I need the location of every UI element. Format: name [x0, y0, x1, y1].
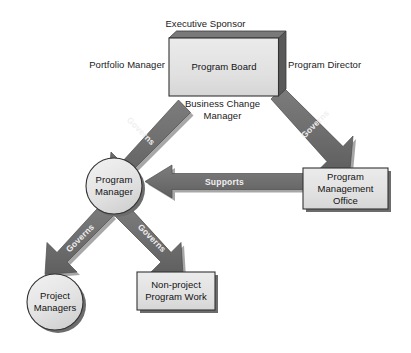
label-program-director: Program Director: [288, 59, 361, 71]
node-label-pmo-line1: Program: [303, 171, 388, 183]
edge-label-pmo-to-manager: Supports: [205, 177, 244, 187]
label-business-change-manager-line1: Business Change: [160, 98, 285, 110]
node-label-program-manager-line1: Program: [84, 174, 144, 186]
node-label-project-managers-line2: Managers: [25, 302, 85, 314]
node-label-program-board: Program Board: [169, 61, 279, 73]
node-label-project-managers-line1: Project: [25, 290, 85, 302]
node-label-pmo-line3: Office: [303, 195, 388, 207]
node-label-program-manager-line2: Manager: [84, 186, 144, 198]
label-portfolio-manager: Portfolio Manager: [0, 59, 165, 71]
node-label-pmo-line2: Management: [303, 183, 388, 195]
node-label-non-project-line2: Program Work: [137, 291, 215, 303]
label-business-change-manager-line2: Manager: [160, 110, 285, 122]
label-executive-sponsor: Executive Sponsor: [0, 18, 411, 30]
program-governance-diagram: Executive Sponsor Portfolio Manager Prog…: [0, 0, 411, 353]
node-label-non-project-line1: Non-project: [137, 279, 215, 291]
